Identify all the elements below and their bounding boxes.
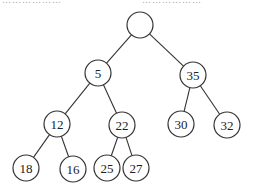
node-label: 30 <box>175 117 188 132</box>
tree-edge-n5-n12 <box>65 83 90 114</box>
node-label: 32 <box>221 118 234 133</box>
node-label: 12 <box>51 117 64 132</box>
tree-node-30: 30 <box>168 111 194 137</box>
tree-node-5: 5 <box>85 60 111 86</box>
tree-node-25: 25 <box>94 155 120 181</box>
tree-nodes: 5351222303218162527 <box>13 12 240 182</box>
tree-edge-n22-n27 <box>126 137 132 155</box>
node-label: 5 <box>95 66 102 81</box>
node-label: 16 <box>67 162 81 177</box>
tree-edge-n5-n22 <box>103 85 116 113</box>
tree-edge-n35-n30 <box>184 88 190 112</box>
tree-node-16: 16 <box>60 156 86 182</box>
node-label: 18 <box>20 161 33 176</box>
tree-node-32: 32 <box>214 112 240 138</box>
tree-node-35: 35 <box>180 62 206 88</box>
tree-edge-n35-n32 <box>200 86 219 114</box>
tree-node-27: 27 <box>123 155 149 181</box>
tree-node-22: 22 <box>109 112 135 138</box>
tree-node-12: 12 <box>44 111 70 137</box>
tree-edges <box>33 34 219 157</box>
node-label: 27 <box>130 161 144 176</box>
tree-node-root <box>127 12 153 38</box>
node-circle <box>127 12 153 38</box>
node-label: 22 <box>116 118 129 133</box>
tree-edge-n12-n16 <box>61 136 68 157</box>
tree-edge-n12-n18 <box>33 135 49 158</box>
node-label: 25 <box>101 161 114 176</box>
node-label: 35 <box>187 68 200 83</box>
tree-node-18: 18 <box>13 155 39 181</box>
tree-edge-root-n35 <box>149 34 183 66</box>
binary-tree-diagram: 5351222303218162527 <box>0 0 253 193</box>
tree-edge-root-n5 <box>107 35 132 63</box>
tree-edge-n22-n25 <box>111 137 117 155</box>
